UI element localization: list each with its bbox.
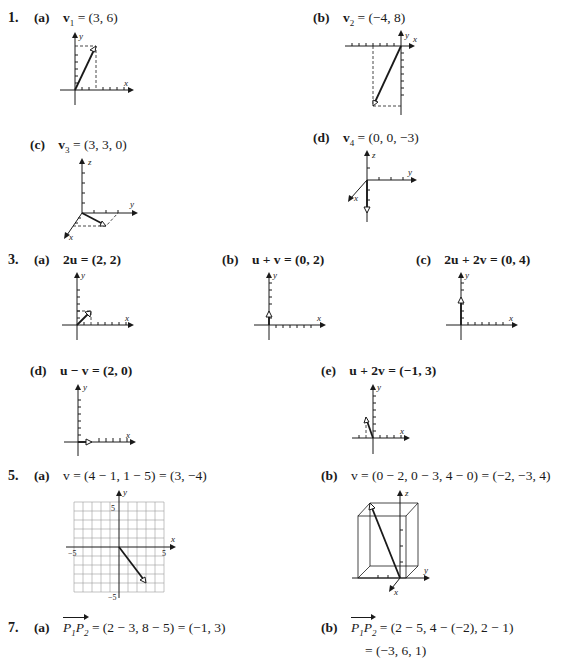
- plot-3d: y x: [64, 382, 139, 457]
- svg-text:x: x: [124, 313, 129, 323]
- svg-text:z: z: [87, 157, 92, 167]
- svg-text:−5: −5: [68, 549, 77, 558]
- svg-text:y: y: [122, 487, 127, 497]
- svg-text:z: z: [404, 488, 409, 498]
- problem-number: 5.: [8, 468, 19, 483]
- equation-rhs: = (2 − 5, 4 − (−2), 2 − 1): [376, 620, 513, 635]
- equation-expr: v = (0 − 2, 0 − 3, 4 − 0) = (−2, −3, 4): [351, 468, 551, 483]
- part-label: (e): [321, 363, 336, 378]
- problem-7b-equation: (b) P1P2 = (2 − 5, 4 − (−2), 2 − 1): [321, 620, 513, 641]
- plot-1b: y x: [345, 30, 445, 120]
- svg-text:x: x: [508, 313, 513, 323]
- vector-p1p2: P1P2: [63, 620, 89, 641]
- part-label: (b): [321, 620, 338, 635]
- equation-expr: 2u + 2v = (0, 4): [444, 252, 530, 267]
- part-label: (a): [34, 620, 50, 635]
- part-label: (c): [30, 137, 45, 152]
- svg-text:5: 5: [162, 549, 166, 558]
- svg-text:−5: −5: [108, 593, 117, 602]
- svg-text:x: x: [393, 587, 398, 597]
- problem-5b-equation: (b) v = (0 − 2, 0 − 3, 4 − 0) = (−2, −3,…: [321, 468, 550, 484]
- svg-text:x: x: [123, 78, 128, 88]
- svg-text:5: 5: [111, 504, 115, 513]
- problem-1d-equation: (d) v4 = (0, 0, −3): [313, 130, 419, 151]
- vector-symbol: v: [343, 10, 350, 25]
- plot-3b: y x: [254, 270, 329, 350]
- plot-1a: y x: [60, 30, 140, 110]
- svg-text:y: y: [407, 167, 412, 177]
- svg-text:x: x: [316, 313, 321, 323]
- equation-expr: u − v = (2, 0): [60, 363, 132, 378]
- vector-symbol: v: [63, 10, 70, 25]
- problem-1a-equation: 1. (a) v1 = (3, 6): [8, 10, 118, 31]
- svg-text:z: z: [371, 150, 376, 160]
- part-label: (b): [222, 252, 239, 267]
- svg-text:y: y: [78, 31, 83, 41]
- problem-3c-equation: (c) 2u + 2v = (0, 4): [416, 252, 530, 268]
- problem-3a-equation: 3. (a) 2u = (2, 2): [8, 252, 121, 268]
- svg-text:y: y: [129, 199, 134, 209]
- svg-text:y: y: [376, 382, 381, 392]
- part-label: (d): [30, 363, 47, 378]
- equation-expr: u + 2v = (−1, 3): [349, 363, 436, 378]
- problem-number: 3.: [8, 252, 19, 267]
- vector-symbol: v: [343, 130, 350, 145]
- part-label: (a): [34, 10, 50, 25]
- svg-text:y: y: [464, 270, 469, 280]
- part-label: (c): [416, 252, 431, 267]
- problem-3b-equation: (b) u + v = (0, 2): [222, 252, 324, 268]
- plot-3c: y x: [446, 270, 521, 350]
- plot-5b: z y x: [352, 488, 462, 598]
- problem-number: 7.: [8, 620, 19, 635]
- equation-rhs: = (2 − 3, 8 − 5) = (−1, 3): [89, 620, 226, 635]
- svg-text:x: x: [399, 426, 404, 436]
- svg-text:x: x: [125, 430, 130, 440]
- equation-rhs: = (3, 3, 0): [70, 137, 127, 152]
- equation-rhs: = (3, 6): [74, 10, 118, 25]
- svg-text:y: y: [423, 565, 428, 575]
- plot-1c: z y x: [60, 155, 150, 240]
- plot-5a: y x 5 5 −5 −5: [64, 492, 179, 602]
- part-label: (d): [313, 130, 330, 145]
- part-label: (a): [34, 252, 50, 267]
- part-label: (b): [313, 10, 330, 25]
- svg-text:x: x: [170, 534, 175, 544]
- svg-text:y: y: [80, 270, 85, 280]
- svg-text:y: y: [404, 30, 409, 40]
- equation-expr: u + v = (0, 2): [252, 252, 324, 267]
- plot-3e: y x: [352, 382, 427, 457]
- equation-expr: 2u = (2, 2): [63, 252, 121, 267]
- problem-1b-equation: (b) v2 = (−4, 8): [313, 10, 405, 31]
- problem-3d-equation: (d) u − v = (2, 0): [30, 363, 132, 379]
- problem-7a-equation: 7. (a) P1P2 = (2 − 3, 8 − 5) = (−1, 3): [8, 620, 226, 641]
- equation-rhs: = (−3, 6, 1): [365, 643, 426, 658]
- equation-rhs: = (−4, 8): [354, 10, 405, 25]
- svg-text:x: x: [412, 34, 417, 44]
- problem-number: 1.: [8, 10, 19, 25]
- plot-3a: y x: [62, 270, 137, 350]
- equation-rhs: = (0, 0, −3): [354, 130, 419, 145]
- vector-p1p2: P1P2: [351, 620, 377, 641]
- svg-text:x: x: [353, 193, 358, 203]
- equation-expr: v = (4 − 1, 1 − 5) = (3, −4): [63, 468, 207, 483]
- problem-7b-equation-line2: = (−3, 6, 1): [365, 643, 426, 659]
- problem-5a-equation: 5. (a) v = (4 − 1, 1 − 5) = (3, −4): [8, 468, 207, 484]
- plot-1d: z y x: [345, 150, 425, 225]
- part-label: (b): [321, 468, 338, 483]
- svg-text:x: x: [68, 232, 73, 242]
- svg-text:y: y: [82, 382, 87, 392]
- svg-text:y: y: [272, 270, 277, 280]
- part-label: (a): [34, 468, 50, 483]
- problem-3e-equation: (e) u + 2v = (−1, 3): [321, 363, 436, 379]
